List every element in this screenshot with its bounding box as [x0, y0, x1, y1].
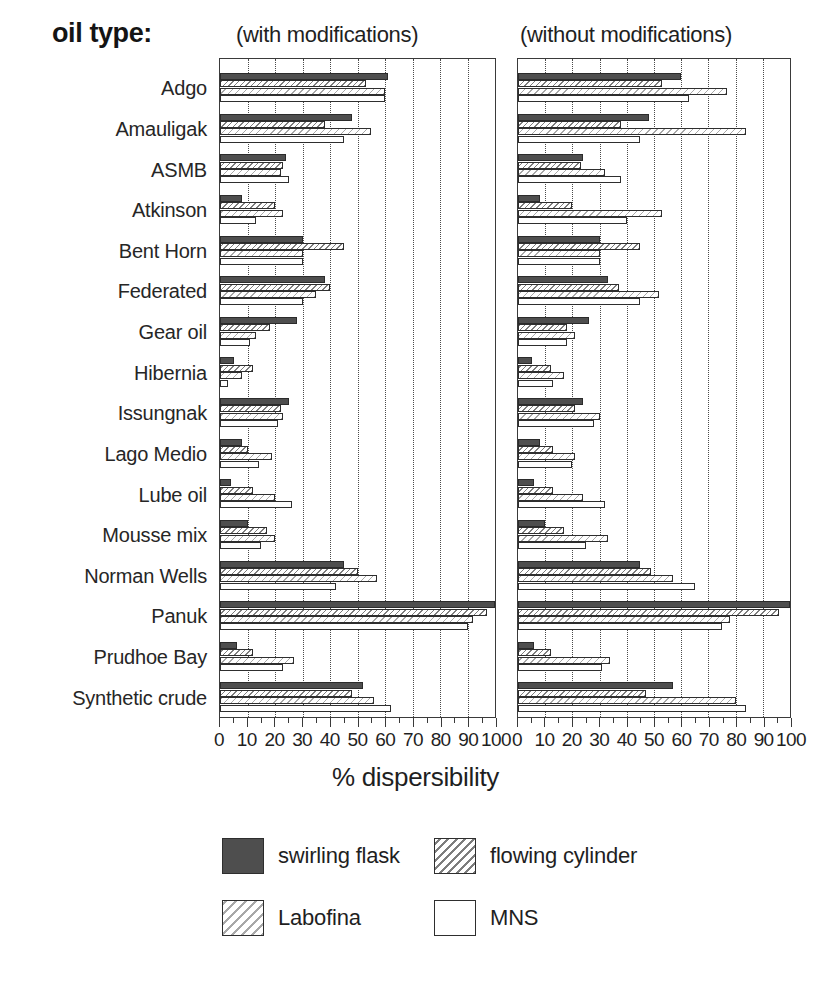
- panel-caption-with-modifications: (with modifications): [236, 22, 418, 48]
- bar: [518, 649, 551, 656]
- bar: [518, 210, 662, 217]
- bar: [518, 217, 627, 224]
- bar-group: [518, 435, 790, 476]
- x-axis-tick-label: 0: [214, 729, 224, 751]
- x-axis-tick-label: 70: [403, 729, 423, 751]
- x-axis-tick-label: 50: [348, 729, 368, 751]
- bar: [220, 284, 330, 291]
- bar: [518, 583, 695, 590]
- axis-tick-minor: [586, 718, 587, 723]
- legend-label-flowing-cylinder: flowing cylinder: [490, 843, 637, 869]
- bar: [518, 609, 779, 616]
- x-axis-tick-labels-right: 0102030405060708090100: [517, 729, 791, 753]
- x-axis-tick-label: 60: [375, 729, 395, 751]
- axis-tick-minor: [261, 718, 262, 723]
- bar: [518, 561, 640, 568]
- bar: [518, 494, 583, 501]
- bar: [518, 568, 651, 575]
- bar: [518, 291, 659, 298]
- legend-item-flowing-cylinder: flowing cylinder: [434, 838, 637, 874]
- bar: [518, 284, 619, 291]
- bar: [220, 413, 283, 420]
- axis-tick-minor: [558, 718, 559, 723]
- axis-tick-minor: [723, 718, 724, 723]
- bar: [220, 609, 487, 616]
- bar: [518, 601, 790, 608]
- bar: [518, 413, 600, 420]
- bar-group: [518, 232, 790, 273]
- bar: [518, 169, 605, 176]
- bar: [518, 479, 534, 486]
- bar: [220, 357, 234, 364]
- axis-tick-minor: [640, 718, 641, 723]
- bar: [220, 664, 283, 671]
- x-axis-tick-label: 10: [237, 729, 257, 751]
- bar: [220, 339, 250, 346]
- bar: [220, 575, 377, 582]
- x-axis-tick-label: 0: [512, 729, 522, 751]
- bar: [220, 258, 303, 265]
- bar-group: [518, 353, 790, 394]
- bar: [518, 527, 564, 534]
- bar: [518, 657, 610, 664]
- bar-group: [220, 475, 495, 516]
- chart-legend: swirling flask flowing cylinder Labofina…: [0, 832, 831, 957]
- bar: [220, 317, 297, 324]
- bar-group: [518, 272, 790, 313]
- bar-group: [220, 313, 495, 354]
- x-axis-tick-label: 10: [534, 729, 554, 751]
- x-axis-tick-label: 60: [671, 729, 691, 751]
- x-axis-tick-label: 40: [617, 729, 637, 751]
- bar: [518, 324, 567, 331]
- bar: [220, 461, 259, 468]
- bar: [220, 324, 270, 331]
- axis-tick-major: [496, 718, 497, 727]
- bar: [220, 195, 242, 202]
- bar: [518, 682, 673, 689]
- bar-group: [518, 110, 790, 151]
- bar: [220, 276, 325, 283]
- bar: [518, 298, 640, 305]
- axis-tick-major: [544, 718, 545, 727]
- bar: [518, 365, 551, 372]
- bar-group: [518, 516, 790, 557]
- legend-swatch-icon-swirling-flask: [222, 838, 264, 874]
- axis-tick-major: [599, 718, 600, 727]
- bar: [220, 80, 366, 87]
- bar: [518, 535, 608, 542]
- bar: [220, 236, 303, 243]
- legend-item-swirling-flask: swirling flask: [222, 838, 400, 874]
- bar: [518, 501, 605, 508]
- bar: [518, 520, 545, 527]
- bar-group: [220, 353, 495, 394]
- axis-tick-minor: [668, 718, 669, 723]
- bar: [518, 243, 640, 250]
- axis-tick-major: [627, 718, 628, 727]
- bar: [220, 479, 231, 486]
- bar: [518, 664, 602, 671]
- bar: [220, 202, 275, 209]
- bar: [518, 357, 532, 364]
- bar: [518, 88, 727, 95]
- bar: [220, 535, 275, 542]
- bar: [220, 642, 237, 649]
- bar: [518, 453, 575, 460]
- bar: [220, 446, 248, 453]
- bar-group: [220, 272, 495, 313]
- bar: [518, 114, 649, 121]
- x-axis-tick-label: 100: [776, 729, 806, 751]
- bar-group: [220, 110, 495, 151]
- bar: [220, 439, 242, 446]
- x-axis-tick-label: 30: [292, 729, 312, 751]
- bar: [518, 446, 553, 453]
- bar: [518, 642, 534, 649]
- axis-tick-major: [709, 718, 710, 727]
- axis-tick-minor: [777, 718, 778, 723]
- bar: [518, 623, 722, 630]
- bar-group: [518, 597, 790, 638]
- bar: [220, 487, 253, 494]
- axis-tick-major: [247, 718, 248, 727]
- bar-group: [518, 394, 790, 435]
- axis-tick-major: [219, 718, 220, 727]
- axis-tick-major: [572, 718, 573, 727]
